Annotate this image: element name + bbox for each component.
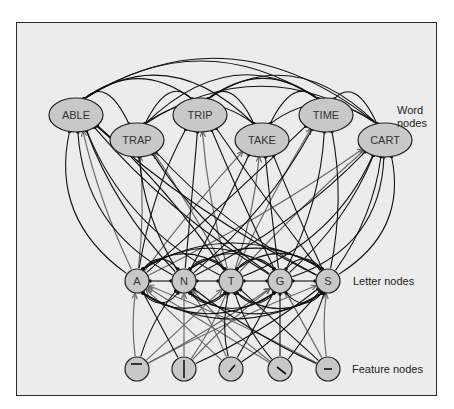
inhibitory-edge (339, 157, 395, 275)
excitatory-edge (324, 294, 326, 356)
word-node-label: TRAP (122, 134, 151, 146)
feature-nodes-label: Feature nodes (352, 363, 423, 376)
letter-node-label: T (228, 275, 235, 287)
word-node-label: TAKE (248, 134, 276, 146)
word-node-trap: TRAP (110, 123, 164, 157)
letter-node-label: A (133, 275, 141, 287)
word-lateral-inhibition (84, 75, 254, 124)
excitatory-edge (193, 289, 270, 360)
word-node-trip: TRIP (173, 98, 227, 132)
network-diagram: ABLETRIPTIMETRAPTAKECARTANTGS (0, 0, 454, 409)
letter-node-g: G (268, 269, 292, 293)
excitatory-edge (133, 294, 135, 356)
feature-node-vertical-icon (172, 357, 196, 381)
letter-nodes-label: Letter nodes (353, 275, 414, 288)
feature-node-horizontal-top-icon (125, 357, 149, 381)
word-nodes-label-line1: Word (397, 104, 427, 117)
letter-lateral-inhibition (190, 293, 225, 303)
feature-node-diagonal-left-icon (268, 357, 292, 381)
word-lateral-inhibition (145, 75, 318, 124)
word-node-label: ABLE (62, 109, 90, 121)
word-node-label: CART (370, 134, 400, 146)
letter-node-label: G (276, 275, 285, 287)
letter-lateral-inhibition (286, 259, 322, 269)
word-nodes-label-line2: nodes (397, 117, 427, 130)
letter-node-n: N (172, 269, 196, 293)
word-node-label: TRIP (187, 109, 212, 121)
inhibitory-edge (237, 292, 273, 357)
feature-node-horizontal-middle-icon (316, 357, 340, 381)
letter-node-s: S (316, 269, 340, 293)
connections-layer (66, 126, 395, 364)
letter-node-t: T (219, 269, 243, 293)
inhibitory-edge (331, 132, 339, 269)
letter-node-label: N (180, 275, 188, 287)
word-node-label: TIME (313, 109, 339, 121)
word-node-time: TIME (299, 98, 353, 132)
feature-node-diagonal-right-icon (219, 357, 243, 381)
word-nodes-label: Word nodes (397, 104, 427, 130)
letter-node-label: S (324, 275, 331, 287)
letter-node-a: A (125, 269, 149, 293)
inhibitory-edge (290, 155, 374, 272)
word-node-able: ABLE (49, 98, 103, 132)
word-node-take: TAKE (235, 123, 289, 157)
